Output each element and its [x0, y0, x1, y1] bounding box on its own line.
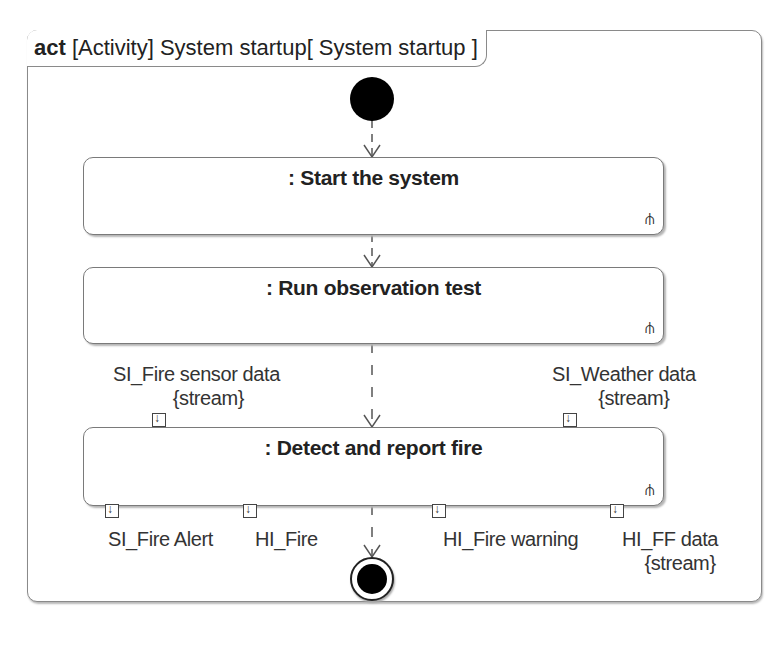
rake-icon: ⫛ [645, 319, 655, 337]
action-start-the-system[interactable]: : Start the system ⫛ [83, 157, 664, 235]
output-pin-fire-warning[interactable] [432, 504, 446, 518]
output-pin-hi-fire[interactable] [243, 504, 257, 518]
initial-node[interactable] [350, 77, 394, 121]
output-pin-fire-alert[interactable] [105, 504, 119, 518]
action-label: : Start the system [84, 166, 663, 190]
input-pin-fire-sensor-data[interactable] [152, 413, 166, 427]
pin-label-fire-alert: SI_Fire Alert [108, 527, 213, 551]
pin-label-weather-data: SI_Weather data {stream} [552, 362, 696, 410]
pin-label-fire-sensor-data: SI_Fire sensor data {stream} [113, 362, 280, 410]
action-label: : Detect and report fire [84, 436, 663, 460]
pin-label-fire-warning: HI_Fire warning [443, 527, 578, 551]
final-node-dot [357, 564, 387, 594]
output-pin-ff-data[interactable] [610, 504, 624, 518]
activity-final-node[interactable] [350, 557, 394, 601]
pin-label-ff-data: HI_FF data {stream} [622, 527, 718, 575]
rake-icon: ⫛ [645, 481, 655, 499]
pin-label-hi-fire: HI_Fire [255, 527, 318, 551]
rake-icon: ⫛ [645, 210, 655, 228]
action-run-observation-test[interactable]: : Run observation test ⫛ [83, 267, 664, 344]
action-label: : Run observation test [84, 276, 663, 300]
input-pin-weather-data[interactable] [563, 413, 577, 427]
action-detect-and-report-fire[interactable]: : Detect and report fire ⫛ [83, 427, 664, 506]
